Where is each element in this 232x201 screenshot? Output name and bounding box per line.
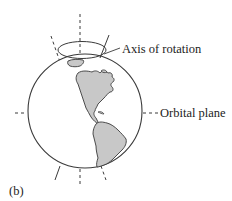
axis-label-leader: [104, 48, 120, 54]
arctic-islands: [101, 70, 107, 73]
tilted-dashed-line-right: [101, 166, 106, 180]
panel-label: (b): [9, 184, 24, 198]
earth-axis-diagram: [0, 0, 232, 201]
rotation-axis-bottom: [55, 166, 60, 180]
axis-of-rotation-label: Axis of rotation: [122, 42, 201, 56]
rotation-axis-top: [100, 35, 109, 58]
orbital-plane-label: Orbital plane: [160, 106, 226, 120]
greenland: [68, 59, 84, 66]
